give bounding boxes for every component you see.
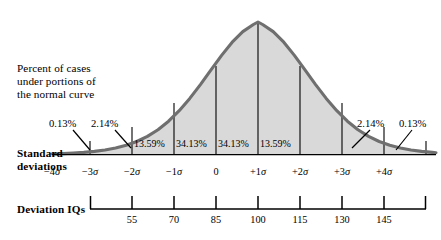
- iq-tick-55: 55: [112, 214, 152, 226]
- sigma-tick-minus-4-unit: σ: [55, 166, 60, 177]
- sigma-tick-plus-3: +3σ: [322, 166, 362, 178]
- sigma-tick-minus-1-unit: σ: [177, 166, 182, 177]
- normal-curve-figure: Percent of cases under portions of the n…: [0, 0, 441, 240]
- sigma-tick-plus-1: +1σ: [238, 166, 278, 178]
- curve-area-fill: [52, 22, 436, 154]
- sigma-tick-zero-value: 0: [213, 166, 218, 177]
- leader-line-left-013: [73, 130, 90, 150]
- sigma-tick-plus-2: +2σ: [280, 166, 320, 178]
- sigma-tick-plus-3-unit: σ: [345, 166, 350, 177]
- percent-label-34-13-left: 34.13%: [176, 138, 207, 150]
- caption-line-2: under portions of: [17, 75, 96, 87]
- percent-label-13-59-right: 13.59%: [260, 138, 291, 150]
- iq-tick-70: 70: [154, 214, 194, 226]
- sigma-tick-minus-4: −4σ: [32, 166, 72, 178]
- sigma-tick-plus-2-unit: σ: [303, 166, 308, 177]
- sigma-tick-minus-2: −2σ: [112, 166, 152, 178]
- iq-tick-145: 145: [364, 214, 404, 226]
- deviation-iqs-row-label: Deviation IQs: [17, 203, 85, 216]
- sigma-tick-minus-3-unit: σ: [93, 166, 98, 177]
- figure-caption: Percent of cases under portions of the n…: [17, 62, 96, 102]
- sigma-tick-plus-4-unit: σ: [387, 166, 392, 177]
- sigma-tick-minus-2-unit: σ: [135, 166, 140, 177]
- iq-tick-130: 130: [322, 214, 362, 226]
- percent-label-0-13-right: 0.13%: [399, 118, 426, 131]
- iq-tick-85: 85: [196, 214, 236, 226]
- leader-line-right-013: [396, 130, 412, 150]
- percent-label-34-13-right: 34.13%: [218, 138, 249, 150]
- percent-label-0-13-left: 0.13%: [49, 118, 76, 131]
- caption-line-1: Percent of cases: [17, 62, 91, 74]
- sigma-tick-zero: 0: [196, 166, 236, 178]
- sigma-tick-plus-4: +4σ: [364, 166, 404, 178]
- std-dev-label-line-1: Standard: [17, 147, 63, 159]
- iq-tick-100: 100: [238, 214, 278, 226]
- percent-label-13-59-left: 13.59%: [134, 138, 165, 150]
- sigma-tick-minus-1: −1σ: [154, 166, 194, 178]
- deviation-iq-ruler: [90, 196, 426, 209]
- band-divider-lines: [90, 22, 426, 154]
- percent-label-2-14-right: 2.14%: [357, 118, 384, 131]
- iq-tick-115: 115: [280, 214, 320, 226]
- sigma-tick-minus-3: −3σ: [70, 166, 110, 178]
- sigma-tick-plus-1-unit: σ: [261, 166, 266, 177]
- caption-line-3: the normal curve: [17, 88, 94, 100]
- percent-label-2-14-left: 2.14%: [91, 118, 118, 131]
